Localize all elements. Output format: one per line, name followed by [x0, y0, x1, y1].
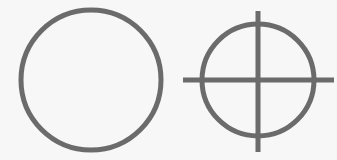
- plain-circle-icon: [21, 10, 161, 150]
- symbols-svg: [0, 0, 337, 160]
- crosshair-icon: [183, 11, 334, 152]
- diagram-canvas: [0, 0, 337, 160]
